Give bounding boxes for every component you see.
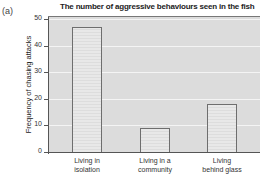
y-tick-label: 0 (26, 147, 42, 154)
bar (72, 27, 102, 152)
x-axis-line (44, 152, 260, 153)
x-tick-label-line: community (125, 165, 185, 174)
x-tick-label: Livingbehind glass (192, 156, 252, 174)
x-tick-label: Living in acommunity (125, 156, 185, 174)
x-tick-label-line: Living in (57, 156, 117, 165)
panel-label: (a) (2, 6, 13, 16)
x-tick-label: Living inisolation (57, 156, 117, 174)
x-tick-label-line: behind glass (192, 165, 252, 174)
y-tick-label: 50 (26, 14, 42, 21)
gridline (49, 19, 260, 20)
y-axis-label: Frequency of chasing attacks (24, 35, 33, 135)
chart-title: The number of aggressive behaviours seen… (60, 2, 255, 11)
y-axis-line (48, 17, 49, 154)
x-tick-label-line: Living in a (125, 156, 185, 165)
x-tick-label-line: isolation (57, 165, 117, 174)
bar (207, 104, 237, 152)
x-tick-label-line: Living (192, 156, 252, 165)
bar (140, 128, 170, 152)
